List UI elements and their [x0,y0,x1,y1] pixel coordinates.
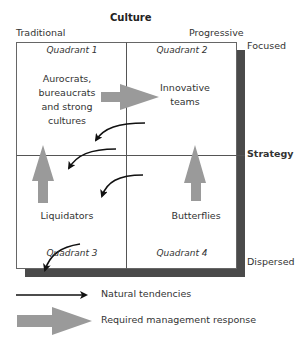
axis-progressive: Progressive [189,27,244,38]
quadrant-3-content: Liquidators [17,209,117,223]
quadrant-4-content: Butterflies [146,209,246,223]
legend-thick-arrow-icon [17,307,92,335]
legend-natural-tendencies: Natural tendencies [101,288,191,299]
quadrant-1-content: Aurocrats, bureaucrats and strong cultur… [17,72,117,128]
quadrant-3-label: Quadrant 3 [17,248,127,258]
axis-dispersed: Dispersed [247,256,295,267]
culture-title: Culture [110,12,152,23]
quadrant-1-label: Quadrant 1 [17,45,127,55]
quadrant-4-label: Quadrant 4 [127,248,237,258]
axis-strategy: Strategy [247,148,293,159]
axis-traditional: Traditional [16,27,65,38]
quadrant-2-content: Innovative teams [150,81,220,109]
axis-focused: Focused [247,40,286,51]
quadrant-2-label: Quadrant 2 [127,45,237,55]
legend-required-response: Required management response [101,314,256,325]
